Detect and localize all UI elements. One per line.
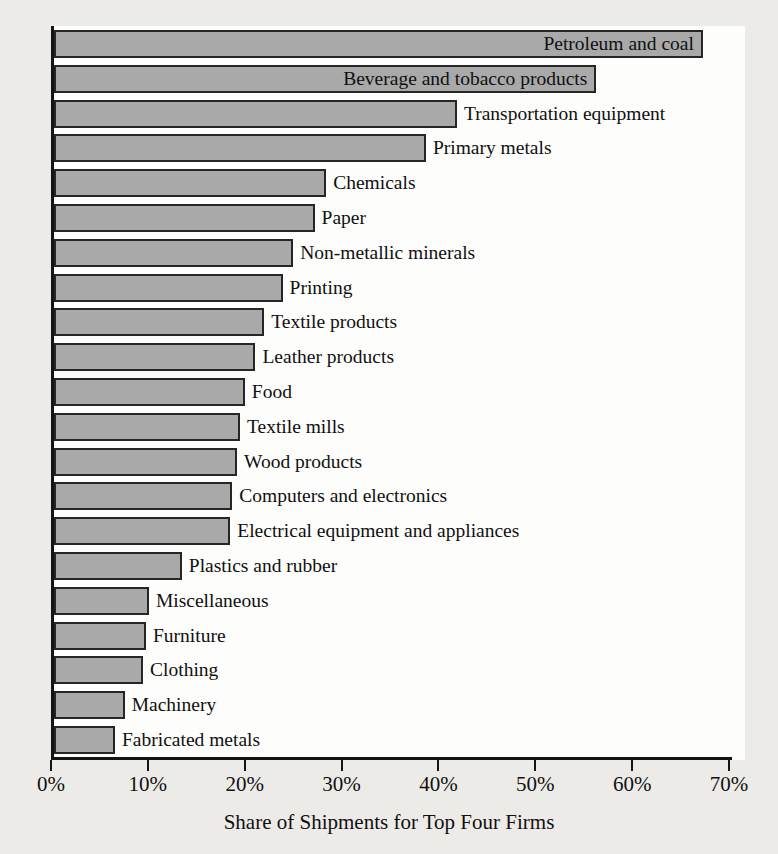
bar-category-label: Printing <box>283 278 353 298</box>
bar-row: Machinery <box>54 691 732 719</box>
bar-category-label: Transportation equipment <box>457 104 665 124</box>
bar-row: Electrical equipment and appliances <box>54 517 732 545</box>
bar <box>54 552 182 580</box>
x-tick-label: 20% <box>225 772 264 797</box>
x-tick-label: 30% <box>322 772 361 797</box>
bar-row: Wood products <box>54 448 732 476</box>
bar <box>54 204 315 232</box>
x-tick-mark <box>244 760 246 771</box>
bar <box>54 274 283 302</box>
bar-category-label: Electrical equipment and appliances <box>230 521 519 541</box>
bar <box>54 308 264 336</box>
x-tick-mark <box>728 760 730 771</box>
bar-row: Miscellaneous <box>54 587 732 615</box>
bar-row: Non-metallic minerals <box>54 239 732 267</box>
x-axis-ticks: 0%10%20%30%40%50%60%70% <box>0 757 778 817</box>
bar-chart: Petroleum and coalBeverage and tobacco p… <box>0 0 778 854</box>
bar-category-label: Paper <box>315 208 366 228</box>
bar-category-label: Textile mills <box>240 417 345 437</box>
bar <box>54 413 240 441</box>
bar <box>54 517 230 545</box>
bar-category-label: Computers and electronics <box>232 487 447 507</box>
bar-row: Petroleum and coal <box>54 30 732 58</box>
bar <box>54 134 426 162</box>
x-tick-label: 10% <box>129 772 168 797</box>
bar-row: Fabricated metals <box>54 726 732 754</box>
bar-category-label: Miscellaneous <box>149 591 269 611</box>
bar <box>54 656 143 684</box>
bar-row: Food <box>54 378 732 406</box>
bar-row: Textile mills <box>54 413 732 441</box>
bar-row: Clothing <box>54 656 732 684</box>
bar-row: Transportation equipment <box>54 100 732 128</box>
bar <box>54 726 115 754</box>
x-axis-title: Share of Shipments for Top Four Firms <box>0 810 778 835</box>
bar-category-label: Textile products <box>264 313 397 333</box>
bar-row: Furniture <box>54 622 732 650</box>
bar <box>54 169 326 197</box>
bar-category-label: Non-metallic minerals <box>293 243 475 263</box>
bar-category-label: Leather products <box>255 347 394 367</box>
x-tick-label: 40% <box>419 772 458 797</box>
bar-category-label: Beverage and tobacco products <box>343 69 596 89</box>
x-tick-mark <box>341 760 343 771</box>
bar-category-label: Machinery <box>125 695 216 715</box>
bar <box>54 482 232 510</box>
x-tick-label: 60% <box>613 772 652 797</box>
bar-row: Textile products <box>54 308 732 336</box>
bar <box>54 587 149 615</box>
bar <box>54 448 237 476</box>
bar-category-label: Furniture <box>146 626 226 646</box>
x-tick-label: 0% <box>37 772 65 797</box>
bar-row: Plastics and rubber <box>54 552 732 580</box>
bar <box>54 691 125 719</box>
bar <box>54 100 457 128</box>
bar-category-label: Clothing <box>143 661 218 681</box>
bar-category-label: Primary metals <box>426 139 552 159</box>
bar <box>54 378 245 406</box>
bar-row: Computers and electronics <box>54 482 732 510</box>
bar-category-label: Chemicals <box>326 173 415 193</box>
bar-series: Petroleum and coalBeverage and tobacco p… <box>54 28 745 758</box>
bar-row: Chemicals <box>54 169 732 197</box>
bar-row: Paper <box>54 204 732 232</box>
bar-category-label: Food <box>245 382 292 402</box>
x-tick-mark <box>534 760 536 771</box>
bar-row: Beverage and tobacco products <box>54 65 732 93</box>
x-tick-mark <box>631 760 633 771</box>
bar-row: Primary metals <box>54 134 732 162</box>
x-tick-label: 70% <box>710 772 749 797</box>
x-tick-label: 50% <box>516 772 555 797</box>
x-tick-mark <box>147 760 149 771</box>
bar-category-label: Fabricated metals <box>115 730 260 750</box>
bar <box>54 343 255 371</box>
bar-category-label: Plastics and rubber <box>182 556 337 576</box>
bar-row: Leather products <box>54 343 732 371</box>
bar-row: Printing <box>54 274 732 302</box>
bar-category-label: Petroleum and coal <box>543 34 703 54</box>
x-tick-mark <box>50 760 52 771</box>
bar <box>54 622 146 650</box>
x-tick-mark <box>437 760 439 771</box>
bar-category-label: Wood products <box>237 452 362 472</box>
bar <box>54 239 293 267</box>
